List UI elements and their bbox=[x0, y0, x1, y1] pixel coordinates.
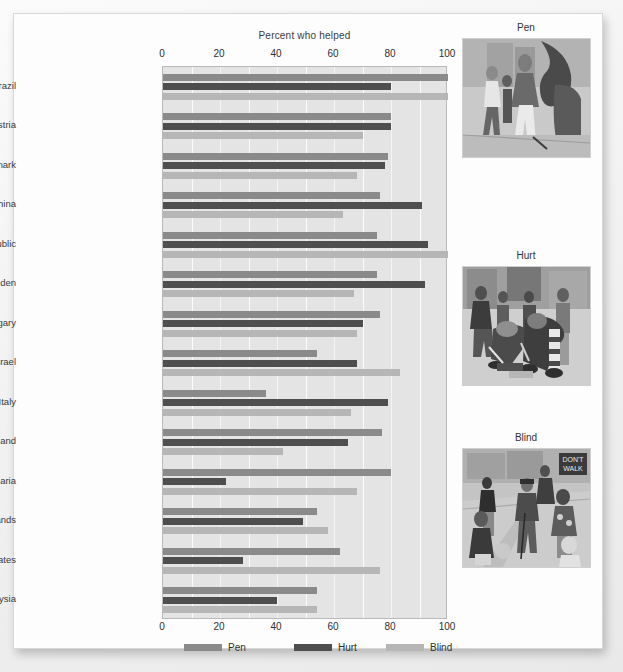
x-axis-top: 020406080100 bbox=[162, 48, 447, 62]
category-label: Vienna, Austria bbox=[0, 119, 16, 130]
bar-hurt bbox=[163, 399, 388, 406]
legend-item-pen[interactable]: Pen bbox=[184, 642, 246, 653]
bar-pen bbox=[163, 232, 377, 239]
bar-group bbox=[163, 469, 446, 495]
gridline bbox=[192, 67, 193, 618]
bar-pen bbox=[163, 192, 380, 199]
x-tick-label: 100 bbox=[439, 48, 456, 59]
bar-pen bbox=[163, 429, 382, 436]
gridline bbox=[334, 67, 335, 618]
bar-group bbox=[163, 113, 446, 139]
category-label: Prague, Czech Republic bbox=[0, 238, 16, 249]
chart-legend: PenHurtBlind bbox=[154, 642, 439, 658]
legend-item-hurt[interactable]: Hurt bbox=[294, 642, 357, 653]
bar-blind bbox=[163, 409, 351, 416]
bar-hurt bbox=[163, 597, 277, 604]
bar-hurt bbox=[163, 83, 391, 90]
x-tick-label: 80 bbox=[384, 48, 395, 59]
figure-card: Percent who helped 020406080100 02040608… bbox=[13, 13, 603, 649]
svg-text:DON'T: DON'T bbox=[562, 456, 584, 463]
x-tick-label: 100 bbox=[439, 621, 456, 632]
panel-pen-title: Pen bbox=[456, 22, 596, 33]
x-tick-label: 60 bbox=[327, 621, 338, 632]
bar-group bbox=[163, 548, 446, 574]
chart-title: Percent who helped bbox=[162, 30, 447, 41]
bar-pen bbox=[163, 271, 377, 278]
bar-blind bbox=[163, 211, 343, 218]
x-tick-label: 80 bbox=[384, 621, 395, 632]
x-tick-label: 40 bbox=[270, 621, 281, 632]
bar-hurt bbox=[163, 320, 363, 327]
bar-hurt bbox=[163, 202, 422, 209]
gridline bbox=[363, 67, 364, 618]
category-label: Bangkok, Thailand bbox=[0, 435, 16, 446]
sketch-pen-dropped-illustration bbox=[462, 38, 591, 158]
plot-area bbox=[162, 66, 447, 619]
bar-blind bbox=[163, 330, 357, 337]
sketch-hurt-leg-illustration bbox=[462, 266, 591, 386]
gridline bbox=[277, 67, 278, 618]
sketch-blind-man-crossing-illustration: DON'T WALK bbox=[462, 448, 591, 568]
gridline bbox=[306, 67, 307, 618]
bar-pen bbox=[163, 390, 266, 397]
bar-pen bbox=[163, 74, 448, 81]
bar-pen bbox=[163, 508, 317, 515]
legend-swatch-blind bbox=[386, 644, 424, 651]
legend-item-blind[interactable]: Blind bbox=[386, 642, 452, 653]
bar-blind bbox=[163, 251, 448, 258]
bar-pen bbox=[163, 469, 391, 476]
category-label: Rome, Italy bbox=[0, 396, 16, 407]
bar-hurt bbox=[163, 162, 385, 169]
bar-pen bbox=[163, 311, 380, 318]
bar-pen bbox=[163, 350, 317, 357]
gridline bbox=[420, 67, 421, 618]
bar-blind bbox=[163, 448, 283, 455]
category-label: Tel Aviv, Israel bbox=[0, 356, 16, 367]
category-label: Kuala Lumpur, Malaysia bbox=[0, 593, 16, 604]
category-label: Stockholm, Sweden bbox=[0, 277, 16, 288]
category-label: Sofia, Bulgaria bbox=[0, 475, 16, 486]
legend-label-blind: Blind bbox=[430, 642, 452, 653]
bar-blind bbox=[163, 290, 354, 297]
bar-chart: Percent who helped 020406080100 02040608… bbox=[22, 22, 447, 637]
bar-group bbox=[163, 192, 446, 218]
bar-pen bbox=[163, 548, 340, 555]
bar-blind bbox=[163, 172, 357, 179]
category-label: Rio de Janeiro, Brazil bbox=[0, 80, 16, 91]
legend-label-pen: Pen bbox=[228, 642, 246, 653]
category-label: Shanghai, China bbox=[0, 198, 16, 209]
category-label: Copenhagen, Denmark bbox=[0, 159, 16, 170]
bar-hurt bbox=[163, 439, 348, 446]
bar-hurt bbox=[163, 518, 303, 525]
x-tick-label: 40 bbox=[270, 48, 281, 59]
bar-group bbox=[163, 153, 446, 179]
bar-group bbox=[163, 311, 446, 337]
x-tick-label: 20 bbox=[213, 621, 224, 632]
x-tick-label: 60 bbox=[327, 48, 338, 59]
svg-text:WALK: WALK bbox=[563, 465, 583, 472]
bar-group bbox=[163, 74, 446, 100]
bar-hurt bbox=[163, 557, 243, 564]
panel-pen: Pen bbox=[456, 22, 596, 158]
bar-blind bbox=[163, 132, 363, 139]
bar-pen bbox=[163, 587, 317, 594]
panel-blind-title: Blind bbox=[456, 432, 596, 443]
bar-hurt bbox=[163, 123, 391, 130]
bar-group bbox=[163, 271, 446, 297]
bar-group bbox=[163, 508, 446, 534]
category-label: Budapest, Hungary bbox=[0, 317, 16, 328]
bar-hurt bbox=[163, 241, 428, 248]
bar-blind bbox=[163, 606, 317, 613]
legend-label-hurt: Hurt bbox=[338, 642, 357, 653]
bar-group bbox=[163, 587, 446, 613]
category-label: Amsterdam, Netherlands bbox=[0, 514, 16, 525]
bar-pen bbox=[163, 113, 391, 120]
category-label: New York, United States bbox=[0, 554, 16, 565]
bar-blind bbox=[163, 93, 448, 100]
gridline bbox=[220, 67, 221, 618]
bar-blind bbox=[163, 567, 380, 574]
bar-blind bbox=[163, 527, 328, 534]
bar-blind bbox=[163, 488, 357, 495]
x-tick-label: 0 bbox=[159, 48, 165, 59]
x-tick-label: 0 bbox=[159, 621, 165, 632]
